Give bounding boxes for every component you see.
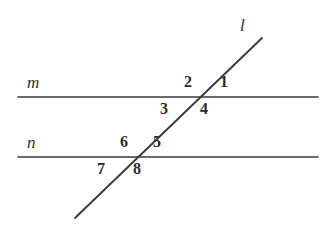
angle-label-4: 4 [200, 101, 208, 117]
angle-label-3: 3 [160, 101, 168, 117]
geometry-figure: m n l 1 2 3 4 5 6 7 8 [0, 0, 335, 231]
angle-label-2: 2 [184, 74, 192, 90]
angle-label-5: 5 [153, 134, 161, 150]
line-label-m: m [27, 74, 39, 91]
angle-label-6: 6 [120, 134, 128, 150]
angle-label-8: 8 [133, 161, 141, 177]
line-l-transversal [75, 38, 262, 218]
line-label-n: n [27, 134, 36, 151]
line-label-l: l [240, 17, 245, 34]
angle-label-7: 7 [97, 161, 105, 177]
angle-label-1: 1 [220, 74, 228, 90]
